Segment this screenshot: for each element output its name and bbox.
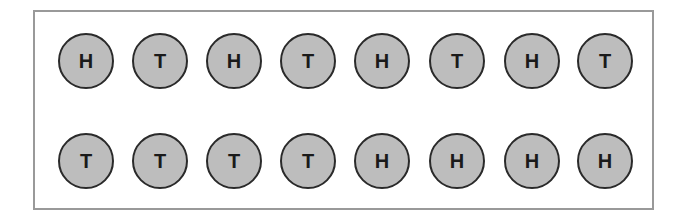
coin-r1-c3: H [206,33,262,89]
coin-label: T [80,150,92,173]
coin-label: H [450,150,464,173]
coin-label: H [79,50,93,73]
coin-label: H [375,150,389,173]
coin-label: T [154,50,166,73]
coin-label: T [228,150,240,173]
coin-r2-c8: H [577,133,633,189]
coin-r1-c1: H [58,33,114,89]
coin-label: T [302,50,314,73]
coin-label: H [525,150,539,173]
coin-label: H [525,50,539,73]
coin-label: T [154,150,166,173]
coin-r2-c2: T [132,133,188,189]
coin-r2-c7: H [504,133,560,189]
coin-r2-c5: H [354,133,410,189]
coin-label: T [302,150,314,173]
coin-label: H [598,150,612,173]
coin-r2-c1: T [58,133,114,189]
coin-label: T [599,50,611,73]
coin-r1-c2: T [132,33,188,89]
coin-r1-c8: T [577,33,633,89]
coin-label: T [451,50,463,73]
coin-r2-c6: H [429,133,485,189]
coin-r1-c5: H [354,33,410,89]
coin-label: H [375,50,389,73]
coin-r1-c4: T [280,33,336,89]
coin-r2-c4: T [280,133,336,189]
coin-r1-c7: H [504,33,560,89]
coin-r2-c3: T [206,133,262,189]
coin-r1-c6: T [429,33,485,89]
diagram-frame [33,10,654,210]
coin-label: H [227,50,241,73]
